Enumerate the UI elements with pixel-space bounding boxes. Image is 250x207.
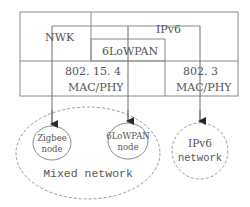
ipv6-network-ellipse — [172, 123, 228, 179]
ipv6-network-line2: network — [178, 152, 222, 164]
mixed-network-label: Mixed network — [43, 167, 133, 180]
protocol-stack-diagram: NWK IPv6 6LoWPAN 802. 15. 4 MAC/PHY 802.… — [0, 0, 250, 207]
sixlowpan-node-ellipse — [108, 123, 148, 159]
zigbee-node-line2: node — [41, 144, 62, 154]
sixlowpan-node-line2: node — [117, 142, 138, 152]
ieee8023-line1: 802. 3 — [183, 65, 218, 78]
nwk-label: NWK — [45, 31, 75, 44]
zigbee-node-line1: Zigbee — [37, 133, 67, 143]
ieee8023-line2: MAC/PHY — [176, 81, 232, 94]
ieee802154-line1: 802. 15. 4 — [65, 65, 121, 78]
ieee802154-line2: MAC/PHY — [68, 81, 124, 94]
ipv6-label: IPv6 — [156, 23, 181, 36]
zigbee-node-ellipse — [33, 126, 71, 160]
sixlowpan-node-line1: 6LoWPAN — [106, 131, 150, 141]
ipv6-network-line1: IPv6 — [188, 137, 212, 149]
sixlowpan-label: 6LoWPAN — [102, 45, 159, 58]
